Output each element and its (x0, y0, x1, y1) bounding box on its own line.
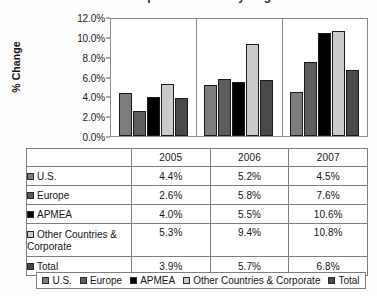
table-cell-2005: 4.4% (132, 167, 211, 186)
bar-chart: % Change 0.0%2.0%4.0%6.0%8.0%10.0%12.0% (0, 9, 377, 148)
bar-group-2006 (196, 19, 281, 136)
table-cell-2007: 10.6% (289, 205, 368, 224)
table-cell-2006: 5.2% (210, 167, 289, 186)
chart-page: Comparable Sales by Segment % Change 0.0… (0, 0, 377, 296)
table-row-label: Other Countries & Corporate (27, 224, 132, 257)
legend-swatch-icon (130, 277, 137, 284)
bar-u-s--2005 (119, 93, 132, 136)
bar-europe-2005 (133, 111, 146, 136)
table-cell-2005: 5.3% (132, 224, 211, 257)
table-row-label: APMEA (27, 205, 132, 224)
legend-label: Total (338, 275, 359, 286)
bar-u-s--2006 (204, 85, 217, 136)
legend-label: Other Countries & Corporate (193, 275, 320, 286)
group-separator (282, 19, 283, 136)
series-swatch-icon (27, 211, 34, 218)
legend-item: Europe (80, 275, 122, 286)
bar-group-2005 (111, 19, 196, 136)
y-tick-label: 6.0% (83, 72, 105, 83)
table-cell-2005: 4.0% (132, 205, 211, 224)
table-cell-2006: 5.5% (210, 205, 289, 224)
legend-label: APMEA (140, 275, 175, 286)
table-row-label: Europe (27, 186, 132, 205)
bar-other-countries-corporate-2005 (161, 84, 174, 136)
bar-total-2006 (260, 80, 273, 136)
bar-other-countries-corporate-2006 (246, 44, 259, 136)
table-col-header-2006: 2006 (210, 149, 289, 167)
legend-item: APMEA (130, 275, 175, 286)
bar-apmea-2005 (147, 97, 160, 136)
chart-legend: U.S.EuropeAPMEAOther Countries & Corpora… (36, 272, 366, 289)
y-tick-label: 12.0% (77, 13, 105, 24)
legend-item: Other Countries & Corporate (183, 275, 320, 286)
bar-total-2007 (346, 70, 359, 136)
legend-label: Europe (90, 275, 122, 286)
bar-u-s--2007 (290, 92, 303, 136)
legend-swatch-icon (42, 277, 49, 284)
bar-europe-2007 (304, 62, 317, 136)
data-table-wrapper: 200520062007 U.S.4.4%5.2%4.5%Europe2.6%5… (26, 148, 368, 276)
table-cell-2007: 4.5% (289, 167, 368, 186)
series-label: Europe (37, 190, 69, 201)
y-tick-label: 8.0% (83, 52, 105, 63)
bar-apmea-2006 (232, 82, 245, 136)
table-row: APMEA4.0%5.5%10.6% (27, 205, 368, 224)
series-label: Other Countries & Corporate (27, 229, 117, 252)
legend-item: Total (328, 275, 359, 286)
table-cell-2006: 9.4% (210, 224, 289, 257)
series-label: APMEA (37, 209, 72, 220)
y-axis-ticks: 0.0%2.0%4.0%6.0%8.0%10.0%12.0% (56, 9, 110, 148)
y-tick-label: 0.0% (83, 132, 105, 143)
table-cell-2007: 10.8% (289, 224, 368, 257)
table-corner-cell (27, 149, 132, 167)
table-row: Other Countries & Corporate5.3%9.4%10.8% (27, 224, 368, 257)
legend-swatch-icon (80, 277, 87, 284)
bar-europe-2006 (218, 79, 231, 136)
bar-other-countries-corporate-2007 (332, 31, 345, 136)
legend-item: U.S. (42, 275, 71, 286)
table-cell-2005: 2.6% (132, 186, 211, 205)
table-cell-2006: 5.8% (210, 186, 289, 205)
bar-apmea-2007 (318, 33, 331, 136)
table-row: U.S.4.4%5.2%4.5% (27, 167, 368, 186)
series-swatch-icon (27, 231, 34, 238)
series-swatch-icon (27, 263, 34, 270)
legend-swatch-icon (328, 277, 335, 284)
series-label: U.S. (37, 171, 56, 182)
legend-label: U.S. (52, 275, 71, 286)
table-cell-2007: 7.6% (289, 186, 368, 205)
plot-area (110, 18, 368, 137)
bar-group-2007 (282, 19, 367, 136)
table-row: Europe2.6%5.8%7.6% (27, 186, 368, 205)
table-col-header-2005: 2005 (132, 149, 211, 167)
legend-swatch-icon (183, 277, 190, 284)
data-table: 200520062007 U.S.4.4%5.2%4.5%Europe2.6%5… (26, 148, 368, 276)
series-swatch-icon (27, 173, 34, 180)
bar-total-2005 (175, 98, 188, 136)
y-tick-label: 2.0% (83, 112, 105, 123)
table-header-row: 200520062007 (27, 149, 368, 167)
chart-title: Comparable Sales by Segment (120, 0, 301, 3)
y-tick-label: 10.0% (77, 32, 105, 43)
series-swatch-icon (27, 192, 34, 199)
chart-title-strip: Comparable Sales by Segment (0, 0, 377, 9)
y-axis-title: % Change (10, 27, 22, 107)
y-tick-label: 4.0% (83, 92, 105, 103)
series-label: Total (37, 261, 58, 272)
table-row-label: U.S. (27, 167, 132, 186)
table-col-header-2007: 2007 (289, 149, 368, 167)
group-separator (196, 19, 197, 136)
